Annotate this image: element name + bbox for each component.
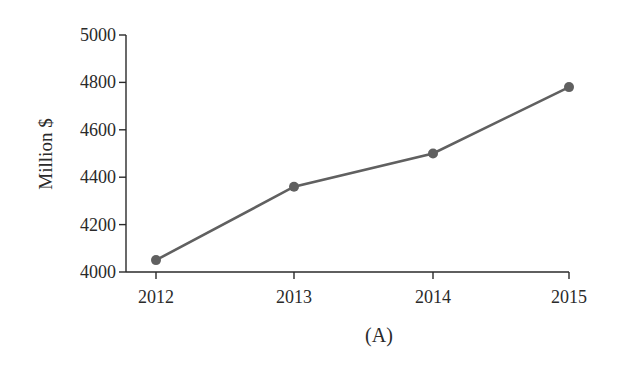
y-tick-label: 4600 [80, 120, 116, 140]
y-axis-title: Million $ [35, 118, 56, 189]
y-tick-label: 4800 [80, 72, 116, 92]
data-point [289, 182, 299, 192]
data-point [564, 82, 574, 92]
x-tick-label: 2013 [276, 287, 312, 307]
x-tick-label: 2014 [415, 287, 451, 307]
line-chart: 400042004400460048005000 201220132014201… [0, 0, 619, 367]
y-axis: 400042004400460048005000 [80, 25, 126, 282]
x-axis: 2012201320142015 [126, 272, 587, 307]
x-tick-label: 2015 [551, 287, 587, 307]
y-tick-label: 4400 [80, 167, 116, 187]
data-point [428, 149, 438, 159]
y-tick-label: 4200 [80, 215, 116, 235]
data-series [151, 82, 574, 265]
data-point [151, 255, 161, 265]
series-line [156, 87, 569, 260]
y-tick-label: 5000 [80, 25, 116, 45]
x-tick-label: 2012 [138, 287, 174, 307]
chart-caption: (A) [365, 324, 393, 347]
y-tick-label: 4000 [80, 262, 116, 282]
